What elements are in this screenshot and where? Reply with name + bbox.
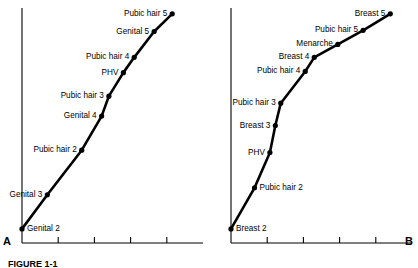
data-point-marker <box>228 226 233 231</box>
chart-panel-a: A Genital 2Genital 3Pubic hair 2Genital … <box>0 0 209 258</box>
data-point-marker <box>388 11 393 16</box>
chart-plot-a <box>0 0 209 258</box>
data-point-marker <box>335 42 340 47</box>
data-point-marker <box>132 55 137 60</box>
data-point-label: Genital 2 <box>27 225 60 233</box>
panel-letter-a: A <box>3 236 11 247</box>
data-line <box>22 14 172 229</box>
data-point-label: PHV <box>102 69 119 77</box>
figure-container: A Genital 2Genital 3Pubic hair 2Genital … <box>0 0 418 268</box>
data-point-label: Pubic hair 3 <box>61 92 104 100</box>
data-point-label: Pubic hair 5 <box>315 26 358 34</box>
data-point-marker <box>312 55 317 60</box>
data-point-marker <box>170 11 175 16</box>
data-point-marker <box>303 69 308 74</box>
data-point-label: Genital 5 <box>116 27 149 35</box>
data-point-marker <box>152 29 157 34</box>
data-point-label: PHV <box>248 148 265 156</box>
panel-letter-b: B <box>405 236 413 247</box>
data-point-label: Breast 2 <box>236 225 267 233</box>
data-point-marker <box>45 192 50 197</box>
data-point-marker <box>267 150 272 155</box>
data-point-marker <box>19 226 24 231</box>
data-point-label: Breast 5 <box>355 10 386 18</box>
data-point-label: Genital 3 <box>10 191 43 199</box>
data-point-marker <box>99 114 104 119</box>
data-point-marker <box>361 28 366 33</box>
data-point-marker <box>106 94 111 99</box>
figure-caption: FIGURE 1-1 <box>8 259 58 268</box>
data-point-label: Menarche <box>296 40 332 48</box>
data-point-marker <box>273 123 278 128</box>
data-point-label: Pubic hair 3 <box>233 99 276 107</box>
data-point-marker <box>79 148 84 153</box>
data-point-label: Pubic hair 4 <box>86 53 129 61</box>
data-point-marker <box>252 185 257 190</box>
figure-caption-label: FIGURE 1-1 <box>8 259 58 268</box>
data-point-label: Pubic hair 2 <box>33 146 76 154</box>
data-point-label: Breast 3 <box>240 121 271 129</box>
data-point-marker <box>278 101 283 106</box>
data-point-label: Pubic hair 5 <box>124 10 167 18</box>
data-point-label: Pubic hair 2 <box>260 184 303 192</box>
data-point-label: Genital 4 <box>64 112 97 120</box>
data-point-marker <box>121 70 126 75</box>
chart-panel-b: B Breast 2Pubic hair 2PHVBreast 3Pubic h… <box>209 0 418 258</box>
data-point-label: Pubic hair 4 <box>257 67 300 75</box>
data-point-label: Breast 4 <box>279 53 310 61</box>
